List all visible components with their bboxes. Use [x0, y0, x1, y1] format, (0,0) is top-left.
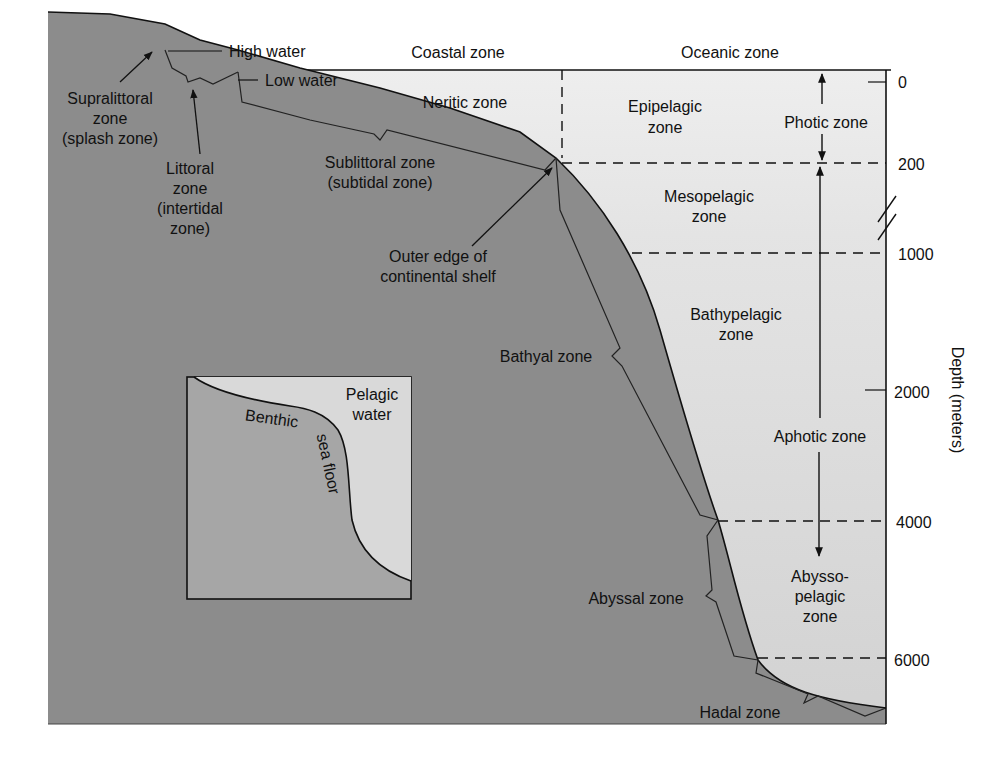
- svg-text:zone: zone: [692, 208, 727, 225]
- oceanic-zone-header: Oceanic zone: [681, 44, 779, 61]
- neritic-zone-label: Neritic zone: [423, 94, 508, 111]
- svg-text:Littoral: Littoral: [166, 160, 214, 177]
- svg-text:water: water: [351, 406, 392, 423]
- low-water-label: Low water: [265, 72, 339, 89]
- tick-4000: 4000: [896, 514, 932, 531]
- svg-text:zone: zone: [803, 608, 838, 625]
- inset-panel: Pelagic water Benthic sea floor: [187, 377, 411, 599]
- depth-axis-label: Depth (meters): [949, 347, 966, 454]
- tick-1000: 1000: [898, 246, 934, 263]
- svg-text:zone: zone: [648, 119, 683, 136]
- svg-text:(splash zone): (splash zone): [62, 130, 158, 147]
- svg-text:(intertidal: (intertidal: [157, 200, 223, 217]
- tick-0: 0: [898, 74, 907, 91]
- svg-text:zone: zone: [93, 110, 128, 127]
- aphotic-zone-label: Aphotic zone: [774, 428, 867, 445]
- coastal-zone-header: Coastal zone: [411, 44, 504, 61]
- svg-text:Supralittoral: Supralittoral: [67, 90, 152, 107]
- svg-text:Abysso-: Abysso-: [791, 568, 849, 585]
- tick-6000: 6000: [894, 652, 930, 669]
- ocean-zones-diagram: 0 200 1000 2000 4000 6000 Depth (meters)…: [0, 0, 1008, 762]
- svg-text:Outer edge of: Outer edge of: [389, 248, 487, 265]
- tick-2000: 2000: [894, 384, 930, 401]
- abyssal-zone-label: Abyssal zone: [588, 590, 683, 607]
- svg-text:Epipelagic: Epipelagic: [628, 98, 702, 115]
- photic-zone-label: Photic zone: [784, 114, 868, 131]
- svg-text:zone: zone: [719, 326, 754, 343]
- high-water-label: High water: [229, 43, 306, 60]
- hadal-zone-label: Hadal zone: [700, 704, 781, 721]
- svg-text:Mesopelagic: Mesopelagic: [664, 188, 754, 205]
- tick-200: 200: [898, 156, 925, 173]
- svg-text:zone: zone: [173, 180, 208, 197]
- svg-text:continental shelf: continental shelf: [380, 268, 496, 285]
- svg-text:Sublittoral zone: Sublittoral zone: [325, 154, 435, 171]
- bathyal-zone-label: Bathyal zone: [500, 348, 593, 365]
- svg-text:Bathypelagic: Bathypelagic: [690, 306, 782, 323]
- svg-text:(subtidal zone): (subtidal zone): [328, 174, 433, 191]
- svg-text:zone): zone): [170, 220, 210, 237]
- svg-text:Pelagic: Pelagic: [346, 386, 398, 403]
- svg-text:pelagic: pelagic: [795, 588, 846, 605]
